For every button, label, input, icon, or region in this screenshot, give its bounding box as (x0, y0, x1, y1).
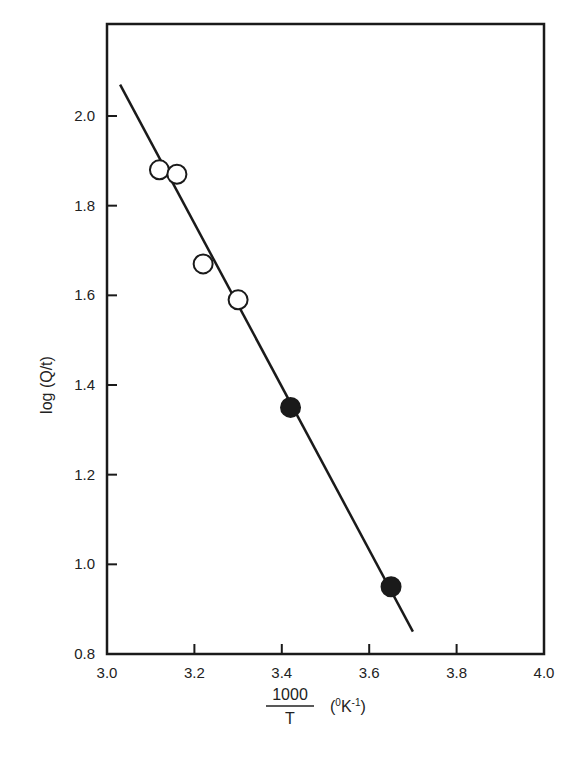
filled-circle-marker (382, 577, 401, 596)
x-label-numerator: 1000 (272, 686, 308, 703)
x-tick-label: 3.4 (271, 664, 292, 681)
plot-border (107, 24, 544, 654)
open-circle-marker (229, 290, 248, 309)
x-label-denominator: T (285, 710, 295, 727)
data-series (120, 85, 413, 632)
y-tick-label: 0.8 (74, 645, 95, 662)
x-label-unit: (0K-1) (330, 697, 366, 715)
filled-circle-marker (281, 398, 300, 417)
y-tick-label: 2.0 (74, 107, 95, 124)
plot-frame (107, 24, 544, 654)
open-circle-marker (167, 165, 186, 184)
x-axis-label: 1000 T (0K-1) (266, 686, 366, 727)
axis-ticks: 3.03.23.43.63.84.00.81.01.21.41.61.82.0 (74, 107, 554, 681)
y-tick-label: 1.6 (74, 286, 95, 303)
y-tick-label: 1.0 (74, 555, 95, 572)
x-tick-label: 3.0 (97, 664, 118, 681)
y-axis-label: log (Q/t) (38, 356, 55, 414)
x-tick-label: 3.6 (359, 664, 380, 681)
chart: 3.03.23.43.63.84.00.81.01.21.41.61.82.0 … (0, 0, 577, 758)
y-tick-label: 1.4 (74, 376, 95, 393)
x-tick-label: 3.8 (446, 664, 467, 681)
open-circle-marker (150, 160, 169, 179)
x-tick-label: 4.0 (534, 664, 555, 681)
y-tick-label: 1.2 (74, 466, 95, 483)
y-tick-label: 1.8 (74, 197, 95, 214)
x-tick-label: 3.2 (184, 664, 205, 681)
open-circle-marker (194, 254, 213, 273)
